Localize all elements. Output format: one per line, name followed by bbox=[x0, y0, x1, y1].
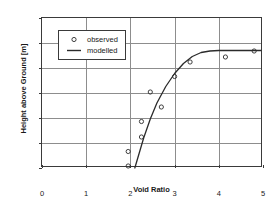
gridline-horizontal bbox=[42, 118, 261, 119]
gridline-horizontal bbox=[42, 143, 261, 144]
gridline-horizontal bbox=[42, 93, 261, 94]
x-axis-title: Void Ratio bbox=[41, 185, 262, 194]
tick-y bbox=[39, 43, 42, 44]
tick-y bbox=[39, 93, 42, 94]
tick-x bbox=[175, 165, 176, 168]
tick-y bbox=[39, 118, 42, 119]
open-circle-icon bbox=[64, 35, 84, 44]
data-point bbox=[139, 135, 143, 139]
tick-x bbox=[263, 165, 264, 168]
tick-y bbox=[39, 18, 42, 19]
tick-y bbox=[39, 168, 42, 169]
data-point bbox=[139, 119, 143, 123]
tick-x bbox=[42, 165, 43, 168]
line-icon bbox=[64, 46, 84, 55]
tick-x bbox=[130, 165, 131, 168]
plot-area: 051015202530 012345 observed modelled bbox=[41, 17, 262, 167]
data-point bbox=[188, 60, 192, 64]
y-axis-title: Height above Ground [m] bbox=[19, 14, 28, 164]
tick-y bbox=[39, 68, 42, 69]
tick-x bbox=[219, 165, 220, 168]
gridline-horizontal bbox=[42, 68, 261, 69]
legend-label-observed: observed bbox=[87, 35, 118, 44]
data-point bbox=[223, 55, 227, 59]
legend-item-observed: observed bbox=[64, 34, 118, 45]
chart-figure: Height above Ground [m] 051015202530 012… bbox=[0, 0, 275, 204]
tick-y bbox=[39, 143, 42, 144]
legend-item-modelled: modelled bbox=[64, 45, 118, 56]
observed-markers bbox=[126, 49, 256, 168]
data-point bbox=[252, 49, 256, 53]
legend: observed modelled bbox=[58, 30, 126, 60]
tick-x bbox=[86, 165, 87, 168]
legend-label-modelled: modelled bbox=[87, 46, 117, 55]
gridline-vertical bbox=[219, 18, 220, 166]
data-point bbox=[159, 105, 163, 109]
gridline-vertical bbox=[175, 18, 176, 166]
gridline-vertical bbox=[130, 18, 131, 166]
